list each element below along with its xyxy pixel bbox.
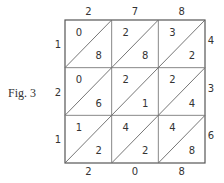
cell-diagonal — [65, 115, 112, 163]
bottom-digit: 0 — [132, 166, 138, 177]
cell-upper-digit: 0 — [76, 27, 82, 38]
cell-lower-digit: 8 — [95, 50, 101, 61]
cell-diagonal — [112, 68, 159, 116]
cell-lower-digit: 6 — [95, 98, 101, 109]
cell-lower-digit: 2 — [95, 145, 101, 156]
lattice-grid — [65, 20, 205, 163]
figure-caption: Fig. 3 — [8, 86, 36, 100]
left-digit: 1 — [55, 134, 61, 145]
cell-diagonal — [112, 20, 159, 68]
cell-diagonal — [158, 68, 205, 116]
left-digit: 1 — [55, 39, 61, 50]
right-digit: 3 — [208, 83, 214, 94]
cell-upper-digit: 2 — [122, 27, 128, 38]
cell-upper-digit: 2 — [169, 74, 175, 85]
cell-diagonal — [65, 68, 112, 116]
cell-diagonal — [65, 20, 112, 68]
cell-upper-digit: 4 — [122, 122, 128, 133]
cell-diagonal — [158, 20, 205, 68]
lattice-diagram: Fig. 3 082832062124124248278208121436 — [0, 0, 224, 183]
cell-upper-digit: 1 — [76, 122, 82, 133]
top-digit: 2 — [85, 6, 91, 17]
cell-upper-digit: 4 — [169, 122, 175, 133]
bottom-digit: 8 — [178, 166, 184, 177]
right-digit: 4 — [208, 35, 214, 46]
cell-diagonal — [112, 115, 159, 163]
cell-upper-digit: 0 — [76, 74, 82, 85]
cell-lower-digit: 4 — [189, 98, 195, 109]
cell-upper-digit: 2 — [122, 74, 128, 85]
right-digit: 6 — [208, 130, 214, 141]
cell-lower-digit: 2 — [142, 145, 148, 156]
top-digit: 8 — [178, 6, 184, 17]
cell-lower-digit: 1 — [142, 98, 148, 109]
cell-lower-digit: 2 — [189, 50, 195, 61]
cell-lower-digit: 8 — [189, 145, 195, 156]
top-digit: 7 — [132, 6, 138, 17]
left-digit: 2 — [55, 87, 61, 98]
cell-lower-digit: 8 — [142, 50, 148, 61]
cell-diagonal — [158, 115, 205, 163]
bottom-digit: 2 — [85, 166, 91, 177]
cell-upper-digit: 3 — [169, 27, 175, 38]
